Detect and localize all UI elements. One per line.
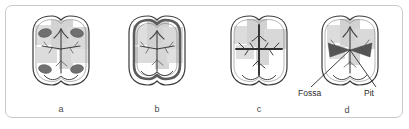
panel-d: Fossa Pit d	[297, 5, 397, 118]
tooth-diagram-a	[11, 5, 111, 100]
label-pit: Pit	[364, 88, 374, 98]
panel-caption-c: c	[209, 104, 309, 114]
enamel-shading-c	[234, 19, 286, 65]
panel-b: b	[107, 5, 207, 118]
figure-root: a	[0, 0, 409, 129]
panel-caption-d: d	[297, 105, 397, 115]
leader-line-pit	[350, 50, 376, 87]
panel-caption-b: b	[107, 104, 207, 114]
tooth-diagram-b	[107, 5, 207, 100]
tooth-diagram-c	[209, 5, 309, 100]
panel-a: a	[11, 5, 111, 118]
panel-caption-a: a	[11, 104, 111, 114]
enamel-shading-b	[133, 20, 183, 69]
tooth-diagram-d	[297, 5, 397, 100]
pit-oval-bottom-left	[38, 64, 52, 75]
panel-container: a	[5, 5, 403, 118]
label-fossa: Fossa	[298, 88, 321, 98]
panel-c: c	[209, 5, 309, 118]
